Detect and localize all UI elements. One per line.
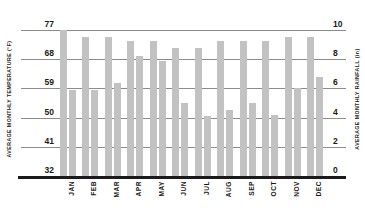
rainfall-bar [249,103,256,176]
bar-group [127,30,147,176]
month-label: FEB [90,181,97,196]
y-axis-left-tick-label: 32 [14,165,54,175]
bar-group [150,30,170,176]
bar-group [60,30,80,176]
temperature-bar [105,37,112,177]
month-label: JUN [180,181,187,196]
bar-series-container [57,30,327,176]
y-axis-right-tick-label: 8 [333,48,365,58]
rainfall-bar [271,115,278,176]
y-axis-right-tick-label: 2 [333,136,365,146]
temperature-bar [217,41,224,176]
y-axis-right-tick-label: 6 [333,77,365,87]
rainfall-bar [136,56,143,176]
bar-group [105,30,125,176]
month-label: MAY [158,181,165,197]
temperature-bar [307,37,314,177]
bar-group [195,30,215,176]
rainfall-bar [91,90,98,176]
month-label: DEC [315,181,322,196]
rainfall-bar [69,90,76,176]
y-axis-right-ticks: 0246810 [333,0,365,210]
temperature-bar [172,48,179,176]
bar-group [217,30,237,176]
y-axis-right-tick-label: 0 [333,165,365,175]
y-axis-left-tick-label: 59 [14,77,54,87]
y-axis-right-tick-label: 4 [333,107,365,117]
rainfall-bar [204,116,211,176]
month-label: APR [135,181,142,196]
weather-bar-chart: AVERAGE MONTHLY TEMPERATURE (°F) AVERAGE… [0,0,365,210]
temperature-bar [240,41,247,176]
bar-group [262,30,282,176]
temperature-bar [262,41,269,176]
bar-group [240,30,260,176]
month-label: MAR [113,181,120,198]
bar-group [285,30,305,176]
temperature-bar [60,30,67,176]
y-axis-left-tick-label: 41 [14,136,54,146]
temperature-bar [127,41,134,176]
month-label: NOV [293,181,300,197]
rainfall-bar [226,110,233,176]
bar-group [307,30,327,176]
y-axis-left-tick-label: 68 [14,48,54,58]
rainfall-bar [114,83,121,176]
bar-group [172,30,192,176]
temperature-bar [195,48,202,176]
y-axis-left-tick-label: 77 [14,19,54,29]
y-axis-right-tick-label: 10 [333,19,365,29]
rainfall-bar [316,77,323,176]
y-axis-left-ticks: 324150596877 [14,0,54,210]
month-label: OCT [270,181,277,196]
month-label: SEP [248,181,255,196]
rainfall-bar [181,103,188,176]
month-label: JUL [203,181,210,195]
y-axis-left-title: AVERAGE MONTHLY TEMPERATURE (°F) [6,4,12,194]
rainfall-bar [159,61,166,176]
bar-group [82,30,102,176]
rainfall-bar [294,88,301,176]
x-axis-category-labels: JANFEBMARAPRMAYJUNJULAUGSEPOCTNOVDEC [57,181,327,210]
temperature-bar [82,37,89,177]
x-axis-baseline [18,176,346,179]
temperature-bar [285,37,292,177]
month-label: JAN [68,181,75,196]
y-axis-left-tick-label: 50 [14,107,54,117]
month-label: AUG [225,181,232,197]
temperature-bar [150,41,157,176]
